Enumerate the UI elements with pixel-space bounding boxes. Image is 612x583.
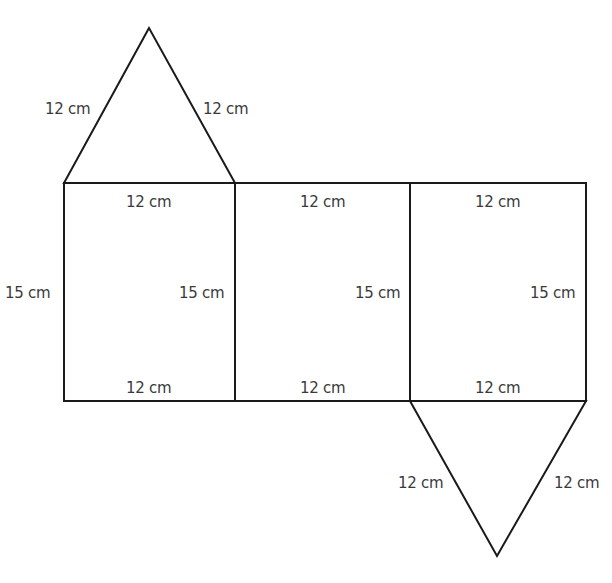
- face-1-right-label: 15 cm: [179, 284, 224, 302]
- top-triangle-right-label: 12 cm: [203, 100, 248, 118]
- face-2-right-label: 15 cm: [355, 284, 400, 302]
- face-3-right-label: 15 cm: [530, 284, 575, 302]
- face-2-top-label: 12 cm: [300, 193, 345, 211]
- face-1-top-label: 12 cm: [126, 193, 171, 211]
- face-1-left-label: 15 cm: [5, 284, 50, 302]
- top-triangle-left-label: 12 cm: [45, 100, 90, 118]
- prism-net-diagram: 12 cm 12 cm 12 cm 15 cm 15 cm 12 cm 12 c…: [0, 0, 612, 583]
- bottom-triangle-right-label: 12 cm: [554, 474, 599, 492]
- face-1-bottom-label: 12 cm: [126, 379, 171, 397]
- face-2-bottom-label: 12 cm: [300, 379, 345, 397]
- face-3-top-label: 12 cm: [475, 193, 520, 211]
- face-3-bottom-label: 12 cm: [475, 379, 520, 397]
- bottom-triangle-left-label: 12 cm: [398, 474, 443, 492]
